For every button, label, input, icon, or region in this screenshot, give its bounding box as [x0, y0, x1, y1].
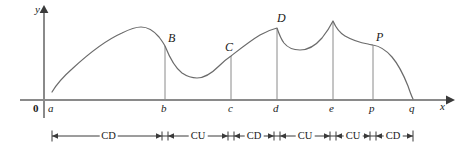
interval-label-ep: CU: [344, 131, 363, 142]
point-label-C: C: [225, 41, 233, 53]
concavity-figure: y x 0 a b c d e p q B C D P CD CU CD CU …: [0, 0, 469, 153]
function-curve: [52, 21, 413, 99]
x-tick-label-p: p: [369, 103, 375, 114]
x-tick-label-c: c: [228, 103, 233, 114]
y-axis-label: y: [35, 4, 40, 15]
interval-label-bc: CU: [189, 131, 208, 142]
interval-label-de: CU: [296, 131, 315, 142]
x-tick-label-q: q: [409, 103, 415, 114]
x-tick-label-d: d: [273, 103, 279, 114]
interval-label-cd: CD: [245, 131, 264, 142]
x-axis: [20, 96, 455, 105]
x-tick-label-a: a: [48, 103, 54, 114]
interval-label-pq: CD: [384, 131, 403, 142]
x-axis-label: x: [440, 101, 445, 112]
point-label-P: P: [376, 31, 383, 43]
point-label-B: B: [168, 32, 175, 44]
origin-label: 0: [33, 103, 39, 114]
interval-label-ab: CD: [99, 131, 118, 142]
point-label-D: D: [277, 12, 286, 24]
x-tick-label-e: e: [329, 103, 334, 114]
x-tick-label-b: b: [161, 103, 167, 114]
